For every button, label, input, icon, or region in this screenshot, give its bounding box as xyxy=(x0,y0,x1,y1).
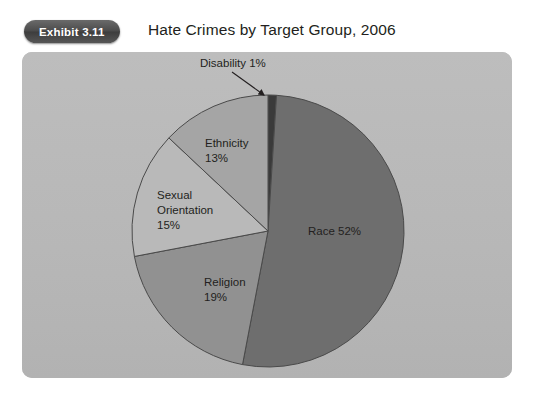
leader-line xyxy=(232,72,264,95)
page-title: Hate Crimes by Target Group, 2006 xyxy=(148,21,396,39)
exhibit-figure: Race 52% Religion 19% Sexual Orientation… xyxy=(0,0,536,401)
exhibit-badge-label: Exhibit 3.11 xyxy=(39,26,105,38)
disability-leader-arrow xyxy=(0,0,536,401)
exhibit-badge: Exhibit 3.11 xyxy=(24,20,120,43)
